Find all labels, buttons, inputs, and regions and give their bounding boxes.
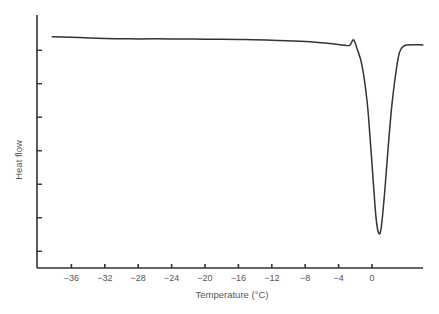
x-tick-label: −20 — [197, 273, 212, 283]
x-tick-label: −12 — [264, 273, 279, 283]
x-tick-label: −36 — [64, 273, 79, 283]
dsc-chart: −36−32−28−24−20−16−12−8−40 Temperature (… — [0, 0, 439, 314]
x-tick-label: −4 — [333, 273, 343, 283]
x-tick-label: −32 — [97, 273, 112, 283]
x-tick-label: −8 — [300, 273, 310, 283]
y-axis-title: Heat flow — [13, 140, 24, 180]
x-tick-label: −24 — [164, 273, 179, 283]
x-axis-title: Temperature (°C) — [196, 289, 269, 300]
x-tick-label: −28 — [131, 273, 146, 283]
x-tick-label: 0 — [369, 273, 374, 283]
x-axis-ticks: −36−32−28−24−20−16−12−8−40 — [64, 264, 375, 283]
x-tick-label: −16 — [231, 273, 246, 283]
heat-flow-curve — [52, 37, 423, 234]
